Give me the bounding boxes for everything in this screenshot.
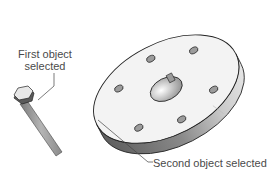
first-leader-line: [38, 73, 54, 100]
flange-disc: [76, 13, 262, 176]
diagram-canvas: [0, 0, 273, 177]
first-object-label-line2: selected: [6, 60, 84, 72]
hex-bolt: [14, 86, 62, 156]
second-object-label: Second object selected: [153, 157, 267, 169]
bolt-shank: [20, 102, 62, 156]
first-object-label-line1: First object: [6, 48, 84, 60]
first-object-label: First object selected: [6, 48, 84, 72]
